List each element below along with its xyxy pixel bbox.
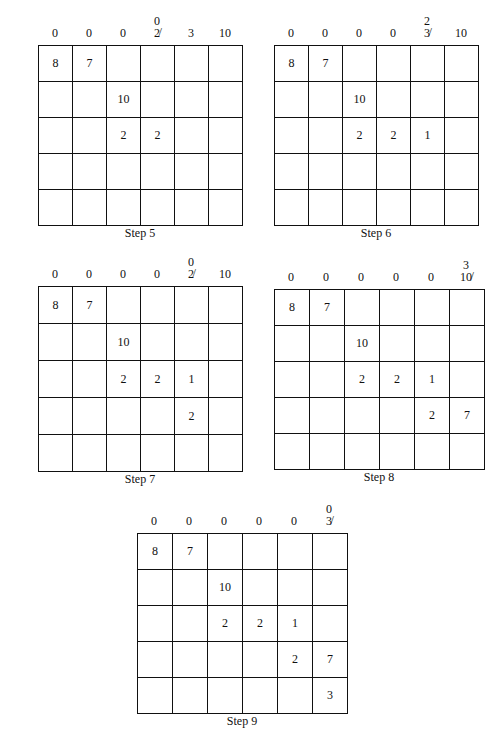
- grid-cell: [39, 324, 73, 361]
- grid-cell: [275, 398, 310, 434]
- column-label: 310̸: [449, 259, 483, 283]
- column-value: 0: [242, 515, 276, 527]
- grid-cell: 2: [107, 361, 141, 398]
- column-label: 02̸: [174, 256, 208, 280]
- grid-cell: 10: [345, 326, 380, 362]
- grid-cell: 10: [343, 82, 377, 118]
- grid-cell: 1: [278, 606, 313, 642]
- grid-cell: [39, 398, 73, 435]
- grid-cell: [313, 570, 348, 606]
- column-label: 0: [137, 515, 171, 527]
- grid-cell: [39, 361, 73, 398]
- column-label: 0: [376, 27, 410, 39]
- grid-cell: 2: [208, 606, 243, 642]
- column-label: 0: [242, 515, 276, 527]
- column-label: 0: [274, 271, 308, 283]
- grid-cell: [345, 434, 380, 470]
- grid-cell: [445, 154, 479, 190]
- grid-cell: [209, 82, 243, 118]
- column-value: 2̸: [174, 268, 208, 280]
- grid-cell: 7: [173, 534, 208, 570]
- grid-cell: 7: [73, 46, 107, 82]
- grid-cell: [209, 118, 243, 154]
- grid-cell: [175, 287, 209, 324]
- column-value: 0: [342, 27, 376, 39]
- column-value: 0: [38, 27, 72, 39]
- column-label: 0: [274, 27, 308, 39]
- column-value: 0: [274, 27, 308, 39]
- column-label: 0: [106, 268, 140, 280]
- grid-cell: 2: [415, 398, 450, 434]
- step-caption: Step 6: [274, 226, 478, 241]
- grid-cell: [345, 290, 380, 326]
- grid-cell: 8: [39, 46, 73, 82]
- column-label: 0: [342, 27, 376, 39]
- grid-cell: [343, 154, 377, 190]
- grid-cell: [209, 287, 243, 324]
- grid-cell: [39, 82, 73, 118]
- grid-cell: [141, 435, 175, 472]
- grid-cell: [141, 154, 175, 190]
- grid-cell: [73, 82, 107, 118]
- grid-cell: [138, 570, 173, 606]
- grid-cell: [243, 570, 278, 606]
- column-label: 03̸: [312, 503, 346, 527]
- column-label: 0: [308, 27, 342, 39]
- allocation-grid: 8710221: [274, 45, 479, 226]
- allocation-grid: 871022127: [274, 289, 485, 470]
- grid-cell: [377, 154, 411, 190]
- grid-cell: 2: [141, 118, 175, 154]
- column-value: 0: [308, 27, 342, 39]
- grid-cell: [73, 398, 107, 435]
- grid-cell: [173, 642, 208, 678]
- column-value: 0: [38, 268, 72, 280]
- grid-cell: [107, 435, 141, 472]
- grid-cell: [107, 154, 141, 190]
- grid-cell: [138, 642, 173, 678]
- grid-cell: [209, 324, 243, 361]
- grid-cell: [275, 154, 309, 190]
- column-value: 0: [106, 27, 140, 39]
- step-caption: Step 8: [274, 470, 484, 485]
- grid-cell: 2: [377, 118, 411, 154]
- grid-cell: [209, 435, 243, 472]
- grid-cell: [380, 434, 415, 470]
- grid-cell: [39, 118, 73, 154]
- grid-cell: 2: [107, 118, 141, 154]
- grid-cell: [209, 154, 243, 190]
- grid-cell: [345, 398, 380, 434]
- grid-cell: [107, 46, 141, 82]
- grid-cell: [450, 434, 485, 470]
- grid-cell: 7: [310, 290, 345, 326]
- column-value: 0: [309, 271, 343, 283]
- step-caption: Step 9: [137, 714, 347, 729]
- step-caption: Step 7: [38, 472, 242, 487]
- column-value: 0: [106, 268, 140, 280]
- grid-cell: 1: [411, 118, 445, 154]
- grid-cell: 1: [175, 361, 209, 398]
- grid-cell: [209, 361, 243, 398]
- grid-cell: [39, 435, 73, 472]
- grid-cell: [411, 82, 445, 118]
- grid-cell: 10: [208, 570, 243, 606]
- grid-cell: [343, 46, 377, 82]
- column-value: 0: [207, 515, 241, 527]
- column-value: 2̸: [140, 27, 174, 39]
- grid-cell: [411, 154, 445, 190]
- column-label: 10: [208, 27, 242, 39]
- grid-cell: 2: [380, 362, 415, 398]
- grid-cell: 1: [415, 362, 450, 398]
- grid-cell: [209, 190, 243, 226]
- grid-cell: [73, 154, 107, 190]
- grid-cell: [141, 287, 175, 324]
- grid-cell: [278, 534, 313, 570]
- grid-cell: [73, 324, 107, 361]
- column-label: 0: [172, 515, 206, 527]
- grid-cell: [73, 118, 107, 154]
- grid-cell: [209, 398, 243, 435]
- column-label: 0: [379, 271, 413, 283]
- column-label: 02̸: [140, 15, 174, 39]
- grid-cell: [377, 82, 411, 118]
- grid-cell: [209, 46, 243, 82]
- grid-cell: 2: [278, 642, 313, 678]
